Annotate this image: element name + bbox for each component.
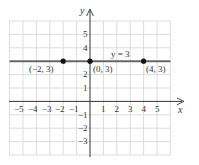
svg-text:−1: −1 [78, 110, 88, 120]
svg-text:1: 1 [101, 104, 106, 114]
svg-text:5: 5 [155, 104, 160, 114]
point-label-neg2-3: (−2, 3) [29, 64, 54, 74]
coordinate-plane: x y y = 3 −5 −4 −3 −2 −1 1 2 3 4 5 5 4 2… [0, 0, 199, 165]
svg-text:−3: −3 [42, 104, 52, 114]
svg-text:−5: −5 [14, 104, 24, 114]
svg-text:2: 2 [115, 104, 120, 114]
svg-text:3: 3 [128, 104, 133, 114]
svg-text:1: 1 [83, 83, 88, 93]
point-label-4-3: (4, 3) [146, 64, 166, 74]
y-axis-label: y [79, 5, 85, 16]
svg-text:−4: −4 [28, 104, 38, 114]
line-equation-label: y = 3 [111, 49, 130, 59]
point-label-0-3: (0, 3) [93, 64, 113, 74]
point-neg2-3 [61, 59, 66, 64]
svg-text:−2: −2 [78, 123, 88, 133]
x-axis-label: x [177, 104, 183, 115]
svg-text:2: 2 [83, 69, 88, 79]
svg-text:5: 5 [83, 29, 88, 39]
point-0-3 [87, 59, 92, 64]
svg-text:4: 4 [142, 104, 147, 114]
svg-text:4: 4 [83, 43, 88, 53]
svg-text:−2: −2 [55, 104, 65, 114]
svg-text:−3: −3 [78, 136, 88, 146]
